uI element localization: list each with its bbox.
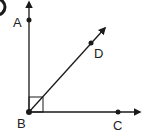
badge-circle	[0, 0, 5, 15]
point-a	[27, 18, 32, 23]
point-d	[89, 41, 94, 46]
angle-diagram: A B C D	[0, 0, 142, 140]
label-c: C	[113, 118, 122, 133]
point-b	[26, 109, 32, 115]
point-c	[116, 110, 121, 115]
label-a: A	[13, 15, 22, 30]
ray-bd	[29, 28, 105, 112]
label-d: D	[94, 46, 103, 61]
label-b: B	[17, 116, 26, 131]
